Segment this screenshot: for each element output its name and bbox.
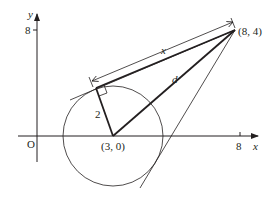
distance-label: d <box>172 73 178 85</box>
tangent-diagram: y 8 O 8 x (3, 0) (8, 4) 2 d x <box>0 0 276 200</box>
y-tick-label: 8 <box>25 24 31 36</box>
tangent-segment <box>96 30 235 88</box>
lower-tangent-line <box>140 30 235 188</box>
center-point-label: (3, 0) <box>101 140 125 153</box>
x-axis-label: x <box>252 140 258 152</box>
x-tick-label: 8 <box>236 140 242 152</box>
external-point-label: (8, 4) <box>238 25 262 38</box>
radius-label: 2 <box>95 108 101 120</box>
origin-label: O <box>27 138 35 150</box>
y-axis-label: y <box>27 8 33 20</box>
dimension-tick-left <box>89 77 93 87</box>
tangent-length-label: x <box>160 44 166 56</box>
